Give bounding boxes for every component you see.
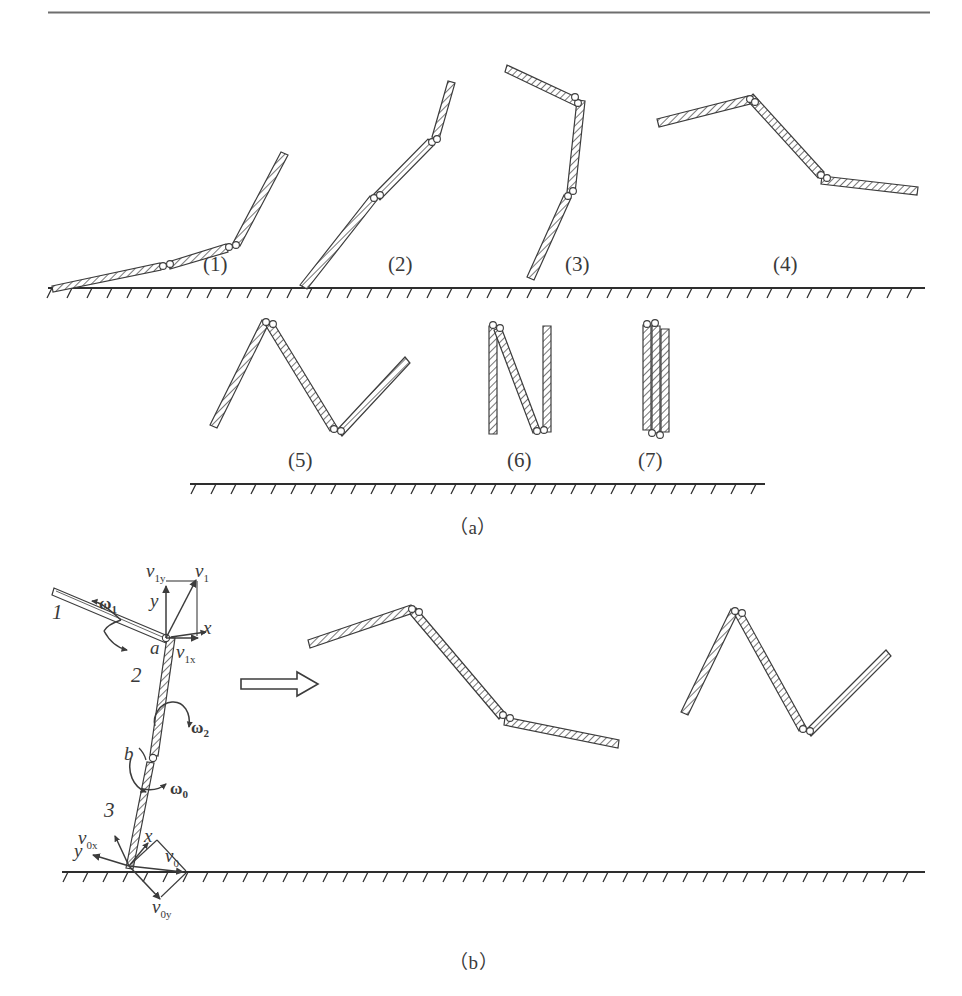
pose-1 xyxy=(52,152,288,292)
v-1y-label: v1y xyxy=(146,560,165,584)
link-2-label: 2 xyxy=(131,663,142,688)
omega-0-label: ω0 xyxy=(170,779,188,800)
axis-x-bottom-label: x xyxy=(144,825,152,847)
pose-4 xyxy=(657,94,918,195)
step-caption-4: (4) xyxy=(773,252,798,277)
result-pose-a xyxy=(308,605,619,748)
step-caption-1: (1) xyxy=(203,252,228,277)
result-pose-b xyxy=(681,608,891,736)
v-1-label: v1 xyxy=(195,560,209,584)
link-1-label: 1 xyxy=(52,600,63,625)
v-1x-label: v1x xyxy=(176,641,195,665)
figure-bottom-caption xyxy=(0,981,962,996)
joint-b-label: b xyxy=(124,743,134,765)
step-caption-7: (7) xyxy=(638,448,663,473)
axis-y-bottom-label: y xyxy=(74,840,82,862)
ground-line-row1 xyxy=(47,288,925,298)
panel-b-caption: （b） xyxy=(449,947,498,974)
step-caption-2: (2) xyxy=(388,252,413,277)
pose-3 xyxy=(505,65,585,280)
step-caption-5: (5) xyxy=(288,448,313,473)
ground-line-row2 xyxy=(190,484,765,494)
joint-b-pin xyxy=(149,754,156,761)
pose-5 xyxy=(210,319,410,436)
step-caption-6: (6) xyxy=(507,448,532,473)
axes-at-a xyxy=(171,632,206,637)
figure-root: (1) (2) (3) (4) (5) (6) (7) （a） （b） 1 2 … xyxy=(0,0,962,996)
omega-1-label: ω1 xyxy=(99,594,117,615)
ground-line-panel-b xyxy=(62,872,925,882)
transition-arrow xyxy=(241,672,318,696)
v-0-label: v0 xyxy=(165,845,179,869)
panel-b xyxy=(52,580,925,899)
omega-2-label: ω2 xyxy=(191,718,209,739)
pose-7 xyxy=(643,320,669,439)
joint-a-label: a xyxy=(150,637,160,659)
panel-a xyxy=(47,65,925,494)
v-0y-label: v0y xyxy=(152,896,171,920)
pose-2 xyxy=(300,81,455,289)
pose-6 xyxy=(489,322,551,435)
velocity-diagram-a xyxy=(166,580,198,638)
panel-a-caption: （a） xyxy=(449,512,497,539)
axis-x-top-label: x xyxy=(203,617,211,639)
axis-y-top-label: y xyxy=(150,590,158,612)
link-3-label: 3 xyxy=(104,798,115,823)
step-caption-3: (3) xyxy=(565,252,590,277)
